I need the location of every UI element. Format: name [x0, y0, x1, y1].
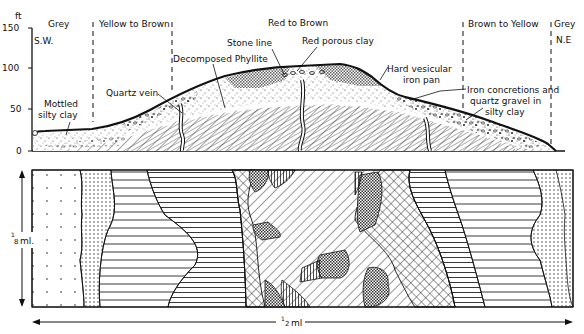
- vertical-scale-unit: ml.: [20, 236, 34, 246]
- direction-ne: N.E: [556, 35, 572, 45]
- zone-label-red-to-brown: Red to Brown: [268, 18, 328, 28]
- label-stone-line: Stone line: [227, 38, 273, 48]
- direction-sw: S.W.: [34, 36, 53, 46]
- arrow-up-icon: [19, 170, 25, 178]
- label-iron-concretions: Iron concretions and: [467, 85, 559, 95]
- zone-label-brown-to-yellow: Brown to Yellow: [468, 19, 539, 29]
- y-axis-unit: ft: [15, 11, 22, 21]
- y-tick-50: 50: [10, 104, 22, 114]
- y-tick-100: 100: [2, 63, 19, 73]
- zone-label-yellow-to-brown: Yellow to Brown: [98, 19, 170, 29]
- vertical-scale: 1 8 ml.: [8, 170, 34, 307]
- soil-catena-diagram: ft 150 100 50 0 Grey Yellow to Brown Red…: [0, 0, 584, 334]
- y-tick-150: 150: [2, 23, 19, 33]
- horizontal-scale-denominator: 2: [285, 320, 289, 328]
- y-tick-0: 0: [16, 146, 22, 156]
- arrow-down-icon: [19, 299, 25, 307]
- label-decomposed-phyllite: Decomposed Phyllite: [173, 54, 268, 64]
- arrow-right-icon: [565, 319, 573, 325]
- vertical-scale-denominator: 8: [14, 238, 18, 246]
- label-quartz-vein: Quartz vein: [106, 88, 158, 98]
- horizontal-scale: 1 2 ml: [32, 315, 573, 328]
- label-iron-pan: iron pan: [403, 75, 440, 85]
- label-red-porous-clay: Red porous clay: [302, 36, 374, 46]
- label-mottled-silty-clay: silty clay: [38, 110, 78, 120]
- label-hard-vesicular: Hard vesicular: [387, 64, 452, 74]
- plan-map: 1 8 ml. 1 2 ml: [8, 170, 573, 328]
- label-mottled: Mottled: [44, 99, 78, 109]
- cross-section-profile: ft 150 100 50 0 Grey Yellow to Brown Red…: [2, 11, 576, 156]
- vertical-scale-numerator: 1: [11, 231, 15, 238]
- horizontal-scale-unit: ml: [291, 318, 302, 328]
- zone-label-grey-ne: Grey: [554, 19, 576, 29]
- zone-label-grey-sw: Grey: [48, 19, 70, 29]
- label-quartz-gravel: quartz gravel in: [470, 96, 541, 106]
- zone-grey-sw: [32, 170, 84, 307]
- arrow-left-icon: [32, 319, 40, 325]
- label-silty-clay: silty clay: [485, 107, 525, 117]
